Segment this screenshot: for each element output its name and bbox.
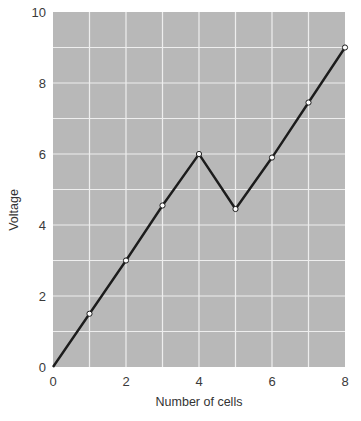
x-axis-label: Number of cells — [156, 395, 243, 409]
data-point-marker — [196, 151, 201, 156]
data-point-marker — [269, 155, 274, 160]
data-point-marker — [342, 45, 347, 50]
voltage-chart: 0246810 02468 Number of cells Voltage — [0, 0, 361, 421]
y-tick-label: 0 — [39, 360, 46, 375]
y-tick-label: 2 — [39, 289, 46, 304]
x-tick-label: 4 — [195, 374, 202, 389]
x-axis-ticks: 02468 — [49, 374, 348, 389]
data-point-marker — [87, 311, 92, 316]
x-tick-label: 2 — [122, 374, 129, 389]
y-tick-label: 8 — [39, 76, 46, 91]
data-point-marker — [123, 258, 128, 263]
x-tick-label: 0 — [49, 374, 56, 389]
data-point-marker — [160, 203, 165, 208]
y-tick-label: 10 — [32, 5, 46, 20]
y-tick-label: 6 — [39, 147, 46, 162]
y-axis-ticks: 0246810 — [32, 5, 46, 375]
y-axis-label: Voltage — [7, 189, 21, 231]
data-point-marker — [306, 100, 311, 105]
data-point-marker — [233, 206, 238, 211]
y-tick-label: 4 — [39, 218, 46, 233]
x-tick-label: 8 — [341, 374, 348, 389]
x-tick-label: 6 — [268, 374, 275, 389]
